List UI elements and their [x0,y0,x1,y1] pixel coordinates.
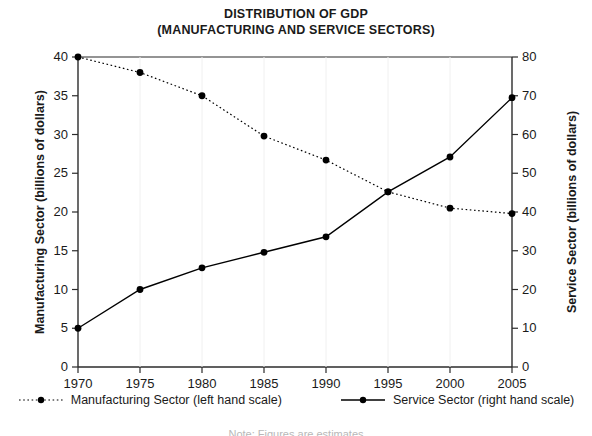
y-right-tick-label: 40 [522,204,562,219]
data-point-marker [199,264,206,271]
data-point-marker [509,210,516,217]
x-tick-label: 2000 [420,376,480,391]
plot-area [0,0,592,436]
y-left-tick-label: 0 [32,359,68,374]
y-right-tick-label: 70 [522,88,562,103]
data-point-marker [137,69,144,76]
y-left-tick-label: 40 [32,49,68,64]
y-left-tick-label: 35 [32,88,68,103]
legend-label: Manufacturing Sector (left hand scale) [71,393,282,407]
data-point-marker [509,94,516,101]
y-right-tick-label: 30 [522,243,562,258]
data-point-marker [261,133,268,140]
x-tick-label: 1985 [234,376,294,391]
data-point-marker [261,249,268,256]
data-point-marker [323,157,330,164]
x-tick-label: 2005 [482,376,542,391]
legend-item-2[interactable]: Service Sector (right hand scale) [340,393,574,407]
y-right-tick-label: 50 [522,165,562,180]
x-tick-label: 1970 [48,376,108,391]
legend-item-1[interactable]: Manufacturing Sector (left hand scale) [18,393,282,407]
y-left-tick-label: 10 [32,282,68,297]
axis-ticks [72,57,518,373]
y-right-tick-label: 60 [522,127,562,142]
y-left-tick-label: 5 [32,320,68,335]
y-right-tick-label: 0 [522,359,562,374]
legend-label: Service Sector (right hand scale) [393,393,574,407]
data-point-marker [447,205,454,212]
data-point-marker [199,92,206,99]
data-point-marker [447,154,454,161]
x-tick-label: 1990 [296,376,356,391]
gdp-distribution-chart: DISTRIBUTION OF GDP (MANUFACTURING AND S… [0,0,592,436]
x-tick-label: 1980 [172,376,232,391]
footnote-text: Note: Figures are estimates [0,428,592,436]
series-line-2 [78,98,512,329]
y-left-tick-label: 15 [32,243,68,258]
legend-line-sample-dotted [18,394,64,406]
data-point-marker [75,325,82,332]
data-point-marker [75,54,82,61]
data-point-marker [323,233,330,240]
y-right-tick-label: 10 [522,320,562,335]
y-left-tick-label: 25 [32,165,68,180]
y-right-tick-label: 80 [522,49,562,64]
legend-line-sample-solid [340,394,386,406]
chart-legend: Manufacturing Sector (left hand scale)Se… [0,393,592,407]
y-left-tick-label: 30 [32,127,68,142]
series-line-1 [78,57,512,214]
y-left-tick-label: 20 [32,204,68,219]
plot-frame [78,57,512,367]
data-point-marker [137,286,144,293]
data-point-marker [385,188,392,195]
vertical-gridlines [140,57,450,367]
y-right-tick-label: 20 [522,282,562,297]
data-series [75,54,516,332]
x-tick-label: 1975 [110,376,170,391]
x-tick-label: 1995 [358,376,418,391]
